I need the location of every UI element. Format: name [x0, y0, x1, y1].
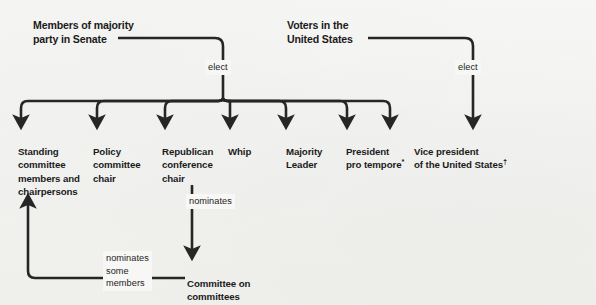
node-committee-on-committees: Committee on committees [187, 263, 287, 304]
node-standing-committee: Standing committee members and chairpers… [18, 131, 92, 199]
node-policy-committee-chair: Policy committee chair [93, 131, 159, 185]
senate-leadership-flowchart: Members of majority party in Senate Vote… [0, 0, 596, 305]
node-majority-leader-label: Majority Leader [286, 146, 322, 171]
node-president-pro-tempore-label: President pro tempore [346, 146, 401, 171]
edge-hub-to-republican-conference-chair [165, 98, 223, 122]
node-vice-president-label: Vice president of the United States [414, 146, 503, 171]
edge-voters-to-vice-president [368, 38, 473, 122]
edge-label-nominates-some-members: nominates some members [103, 251, 152, 291]
node-standing-committee-label: Standing committee members and chairpers… [18, 146, 80, 198]
node-president-pro-tempore: President pro tempore* [346, 131, 414, 172]
node-policy-committee-chair-label: Policy committee chair [93, 146, 141, 184]
edge-label-elect-right: elect [455, 60, 481, 75]
source-voters-label: Voters in the United States [287, 18, 353, 46]
node-president-pro-tempore-footnote-marker: * [401, 157, 404, 166]
node-whip-label: Whip [228, 146, 251, 157]
edge-hub-to-president-pro-tempore-right [223, 98, 390, 122]
node-vice-president-footnote-marker: † [503, 157, 507, 166]
edge-label-elect-left: elect [205, 60, 231, 75]
node-republican-conference-chair: Republican conference chair [162, 131, 228, 185]
node-committee-on-committees-label: Committee on committees [187, 278, 250, 303]
node-majority-leader: Majority Leader [286, 131, 344, 172]
edge-label-nominates: nominates [186, 194, 235, 209]
node-republican-conference-chair-label: Republican conference chair [162, 146, 213, 184]
node-whip: Whip [228, 131, 282, 158]
node-vice-president: Vice president of the United States† [414, 131, 564, 172]
source-majority-party-label: Members of majority party in Senate [33, 18, 134, 46]
